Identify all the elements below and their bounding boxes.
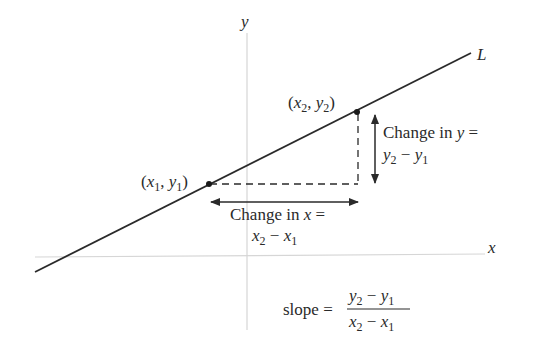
change-x-label-line1: Change in x = xyxy=(230,205,325,224)
change-x-label-line2: x2 − x1 xyxy=(251,226,297,248)
x-axis-label: x xyxy=(487,238,496,257)
point-2 xyxy=(354,109,360,115)
change-y-label-line1: Change in y = xyxy=(383,123,478,142)
x-axis xyxy=(35,254,485,257)
slope-formula-lhs: slope = xyxy=(283,300,333,319)
slope-denominator: x2 − x1 xyxy=(348,312,394,334)
point-2-label: (x2, y2) xyxy=(288,93,335,115)
change-y-label-line2: y2 − y1 xyxy=(381,145,428,167)
slope-numerator: y2 − y1 xyxy=(347,286,394,308)
point-1 xyxy=(206,181,212,187)
y-axis-label: y xyxy=(239,12,249,31)
slope-diagram: y x L (x1, y1) (x2, y2) Change in y = y2… xyxy=(0,0,536,346)
line-L-label: L xyxy=(476,45,486,64)
point-1-label: (x1, y1) xyxy=(141,172,188,194)
